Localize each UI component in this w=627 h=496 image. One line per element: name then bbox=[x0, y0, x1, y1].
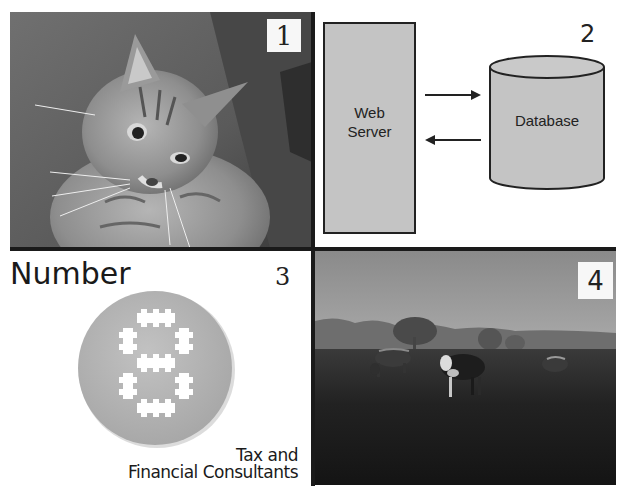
panel-1-cat-photo: 1 bbox=[10, 12, 312, 248]
cows-field-image bbox=[315, 251, 616, 485]
logo-tagline: Tax and Financial Consultants bbox=[128, 447, 298, 481]
panel-3-logo: Number 3 bbox=[0, 251, 311, 496]
panel-4-cows-photo: 4 bbox=[315, 251, 616, 485]
panel-4-number: 4 bbox=[587, 266, 604, 296]
logo-title: Number bbox=[10, 256, 131, 291]
number-8-circle-icon bbox=[75, 288, 245, 458]
panel-2-number: 2 bbox=[580, 20, 595, 48]
database-label: Database bbox=[490, 112, 604, 129]
panel-3-number: 3 bbox=[275, 263, 290, 291]
panel-number-badge: 4 bbox=[578, 262, 613, 299]
web-server-label: Web Server bbox=[324, 103, 415, 141]
panel-2-diagram: Web Server Database 2 bbox=[315, 0, 627, 247]
panel-number-badge: 1 bbox=[267, 19, 301, 52]
panel-1-number: 1 bbox=[276, 21, 293, 51]
